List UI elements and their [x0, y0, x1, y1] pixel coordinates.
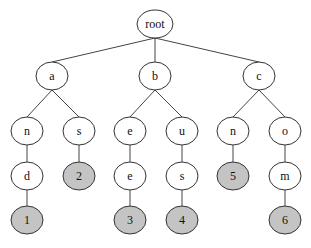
trie-node: m — [269, 162, 301, 190]
node-label: e — [127, 124, 132, 138]
node-label: b — [152, 69, 158, 83]
edge-root-c — [155, 38, 259, 62]
node-label: m — [280, 169, 290, 183]
node-label: 4 — [179, 213, 185, 227]
edge-b-be — [130, 90, 155, 117]
trie-node: d — [11, 162, 43, 190]
trie-node: s — [166, 162, 198, 190]
node-label: 2 — [76, 169, 82, 183]
node-label: 5 — [230, 169, 236, 183]
nodes: rootabcnseunod2es5m1346 — [11, 10, 301, 234]
node-label: e — [127, 169, 132, 183]
terminal-node: 1 — [11, 206, 43, 234]
node-label: d — [24, 169, 30, 183]
root-node: root — [137, 10, 173, 38]
node-label: s — [180, 169, 185, 183]
edge-c-cn — [233, 90, 259, 117]
trie-node: a — [36, 62, 68, 90]
node-label: s — [77, 124, 82, 138]
node-label: 3 — [127, 213, 133, 227]
node-label: 6 — [282, 213, 288, 227]
trie-node: s — [63, 117, 95, 145]
terminal-node: 5 — [217, 162, 249, 190]
terminal-node: 6 — [269, 206, 301, 234]
edge-c-co — [259, 90, 285, 117]
terminal-node: 2 — [63, 162, 95, 190]
edge-a-an — [27, 90, 52, 117]
trie-node: c — [243, 62, 275, 90]
node-label: n — [24, 124, 30, 138]
trie-node: o — [269, 117, 301, 145]
node-label: root — [145, 17, 165, 31]
node-label: 1 — [24, 213, 30, 227]
trie-node: u — [166, 117, 198, 145]
trie-node: e — [114, 162, 146, 190]
edge-b-bu — [155, 90, 182, 117]
trie-node: n — [217, 117, 249, 145]
node-label: c — [256, 69, 261, 83]
trie-node: e — [114, 117, 146, 145]
terminal-node: 3 — [114, 206, 146, 234]
edge-root-a — [52, 38, 155, 62]
node-label: a — [49, 69, 55, 83]
node-label: n — [230, 124, 236, 138]
terminal-node: 4 — [166, 206, 198, 234]
trie-node: n — [11, 117, 43, 145]
trie-diagram: rootabcnseunod2es5m1346 — [0, 0, 311, 248]
edge-a-as — [52, 90, 79, 117]
trie-node: b — [139, 62, 171, 90]
node-label: u — [179, 124, 185, 138]
node-label: o — [282, 124, 288, 138]
